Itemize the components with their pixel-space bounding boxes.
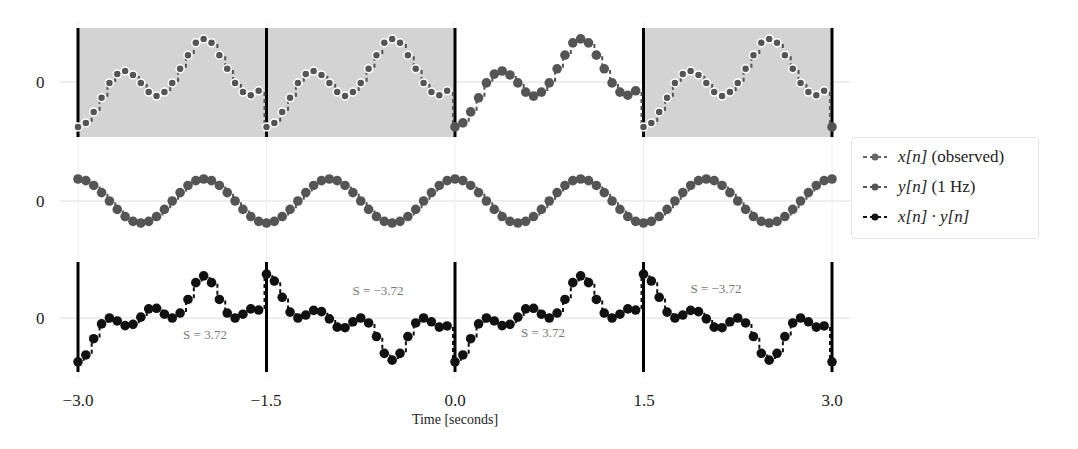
ytick-bottom-zero: 0 (36, 309, 45, 328)
legend-suffix: (observed) (927, 147, 1004, 166)
ytick-top-zero: 0 (36, 73, 45, 92)
legend-var: x[n] · y[n] (898, 207, 969, 226)
legend-marker-icon (862, 211, 888, 223)
xtick-neg1-5: −1.5 (251, 391, 282, 410)
xtick-1-5: 1.5 (633, 391, 654, 410)
legend-item-y-1hz: y[n] (1 Hz) (862, 174, 975, 200)
x-axis-label: Time [seconds] (412, 412, 498, 427)
ytick-middle-zero: 0 (36, 192, 45, 211)
legend-var: y[n] (898, 177, 927, 196)
sum-annotation-4: S = −3.72 (690, 281, 741, 296)
legend-marker-icon (862, 151, 888, 163)
sum-annotation-2: S = −3.72 (352, 283, 403, 298)
legend-marker-icon (862, 181, 888, 193)
legend: x[n] (observed) y[n] (1 Hz) x[n] · y[n] (851, 137, 1039, 239)
legend-suffix: (1 Hz) (927, 177, 975, 196)
legend-item-x-observed: x[n] (observed) (862, 144, 1004, 170)
sum-annotation-1: S = 3.72 (183, 327, 227, 342)
legend-item-product: x[n] · y[n] (862, 204, 969, 230)
xtick-neg3: −3.0 (63, 391, 94, 410)
xtick-3: 3.0 (821, 391, 842, 410)
xtick-0: 0.0 (444, 391, 465, 410)
sum-annotation-3: S = 3.72 (521, 325, 565, 340)
legend-var: x[n] (898, 147, 927, 166)
